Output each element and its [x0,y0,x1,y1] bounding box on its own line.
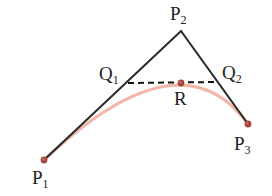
label-q2-base: Q [222,62,236,83]
label-p3-subscript: 3 [245,143,251,157]
bezier-figure: P1 P2 P3 Q1 Q2 R [0,0,272,196]
label-r-base: R [174,88,187,109]
label-p3: P3 [234,134,251,153]
point-p3-dot-highlight [246,122,249,125]
label-p2-base: P [170,3,181,24]
label-p2-subscript: 2 [181,13,187,27]
label-p3-base: P [234,133,245,154]
label-p1-subscript: 1 [43,177,49,191]
point-p1-dot-highlight [42,158,45,161]
label-p1: P1 [32,168,49,187]
bezier-curve-path [44,85,248,160]
label-q1-base: Q [99,63,113,84]
label-p1-base: P [32,167,43,188]
chord-q1-q2-dashed [128,82,216,83]
label-p2: P2 [170,4,187,23]
label-q1-subscript: 1 [113,73,119,87]
label-q2-subscript: 2 [236,72,242,86]
label-r: R [174,89,187,108]
label-q1: Q1 [99,64,119,83]
point-r-dot-highlight [179,81,182,84]
label-q2: Q2 [222,63,242,82]
